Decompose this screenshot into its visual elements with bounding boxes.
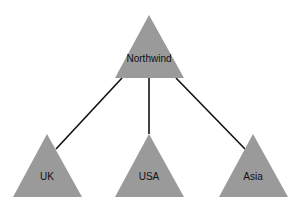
node-uk[interactable]: UK	[13, 134, 82, 197]
node-label-uk: UK	[40, 171, 54, 182]
triangle-shape	[115, 15, 184, 78]
edge-northwind-asia	[176, 78, 245, 149]
triangle-shape	[115, 134, 184, 197]
node-usa[interactable]: USA	[115, 134, 184, 197]
hierarchy-diagram: Northwind UK USA Asia	[0, 0, 304, 209]
triangle-shape	[13, 134, 82, 197]
node-northwind[interactable]: Northwind	[115, 15, 184, 78]
node-asia[interactable]: Asia	[219, 134, 288, 197]
node-label-northwind: Northwind	[126, 53, 171, 64]
node-label-asia: Asia	[243, 171, 263, 182]
edge-northwind-uk	[56, 78, 122, 149]
triangle-shape	[219, 134, 288, 197]
node-label-usa: USA	[139, 171, 160, 182]
